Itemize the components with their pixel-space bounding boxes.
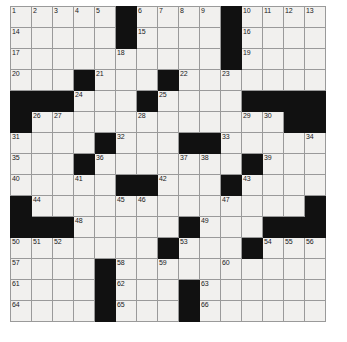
letter-cell[interactable]: [116, 217, 137, 238]
letter-cell[interactable]: [53, 70, 74, 91]
numbered-cell[interactable]: 54: [263, 238, 284, 259]
numbered-cell[interactable]: 37: [179, 154, 200, 175]
letter-cell[interactable]: [242, 217, 263, 238]
letter-cell[interactable]: [137, 217, 158, 238]
letter-cell[interactable]: [200, 196, 221, 217]
numbered-cell[interactable]: 2: [32, 7, 53, 28]
letter-cell[interactable]: [242, 280, 263, 301]
letter-cell[interactable]: [53, 196, 74, 217]
numbered-cell[interactable]: 34: [305, 133, 326, 154]
letter-cell[interactable]: [263, 280, 284, 301]
numbered-cell[interactable]: 48: [74, 217, 95, 238]
letter-cell[interactable]: [137, 280, 158, 301]
letter-cell[interactable]: [221, 280, 242, 301]
letter-cell[interactable]: [74, 238, 95, 259]
numbered-cell[interactable]: 5: [95, 7, 116, 28]
letter-cell[interactable]: [53, 133, 74, 154]
letter-cell[interactable]: [158, 217, 179, 238]
letter-cell[interactable]: [305, 280, 326, 301]
letter-cell[interactable]: [32, 70, 53, 91]
numbered-cell[interactable]: 44: [32, 196, 53, 217]
letter-cell[interactable]: [221, 217, 242, 238]
letter-cell[interactable]: [137, 301, 158, 322]
letter-cell[interactable]: [74, 280, 95, 301]
letter-cell[interactable]: [137, 238, 158, 259]
letter-cell[interactable]: [74, 28, 95, 49]
numbered-cell[interactable]: 10: [242, 7, 263, 28]
numbered-cell[interactable]: 53: [179, 238, 200, 259]
letter-cell[interactable]: [158, 301, 179, 322]
letter-cell[interactable]: [116, 112, 137, 133]
letter-cell[interactable]: [116, 154, 137, 175]
numbered-cell[interactable]: 25: [158, 91, 179, 112]
numbered-cell[interactable]: 38: [200, 154, 221, 175]
letter-cell[interactable]: [179, 49, 200, 70]
numbered-cell[interactable]: 21: [95, 70, 116, 91]
letter-cell[interactable]: [95, 91, 116, 112]
letter-cell[interactable]: [53, 259, 74, 280]
letter-cell[interactable]: [179, 259, 200, 280]
letter-cell[interactable]: [74, 259, 95, 280]
letter-cell[interactable]: [305, 301, 326, 322]
letter-cell[interactable]: [32, 28, 53, 49]
numbered-cell[interactable]: 42: [158, 175, 179, 196]
letter-cell[interactable]: [158, 154, 179, 175]
letter-cell[interactable]: [95, 238, 116, 259]
letter-cell[interactable]: [284, 196, 305, 217]
letter-cell[interactable]: [242, 301, 263, 322]
numbered-cell[interactable]: 64: [11, 301, 32, 322]
letter-cell[interactable]: [158, 280, 179, 301]
letter-cell[interactable]: [263, 301, 284, 322]
letter-cell[interactable]: [305, 175, 326, 196]
numbered-cell[interactable]: 30: [263, 112, 284, 133]
letter-cell[interactable]: [200, 91, 221, 112]
numbered-cell[interactable]: 65: [116, 301, 137, 322]
letter-cell[interactable]: [95, 28, 116, 49]
letter-cell[interactable]: [221, 112, 242, 133]
letter-cell[interactable]: [137, 49, 158, 70]
letter-cell[interactable]: [221, 301, 242, 322]
letter-cell[interactable]: [263, 196, 284, 217]
numbered-cell[interactable]: 61: [11, 280, 32, 301]
numbered-cell[interactable]: 22: [179, 70, 200, 91]
numbered-cell[interactable]: 40: [11, 175, 32, 196]
letter-cell[interactable]: [305, 259, 326, 280]
letter-cell[interactable]: [263, 28, 284, 49]
numbered-cell[interactable]: 11: [263, 7, 284, 28]
letter-cell[interactable]: [116, 238, 137, 259]
letter-cell[interactable]: [158, 28, 179, 49]
letter-cell[interactable]: [284, 280, 305, 301]
letter-cell[interactable]: [95, 196, 116, 217]
numbered-cell[interactable]: 27: [53, 112, 74, 133]
letter-cell[interactable]: [32, 175, 53, 196]
letter-cell[interactable]: [284, 133, 305, 154]
letter-cell[interactable]: [32, 49, 53, 70]
numbered-cell[interactable]: 57: [11, 259, 32, 280]
numbered-cell[interactable]: 28: [137, 112, 158, 133]
letter-cell[interactable]: [200, 112, 221, 133]
numbered-cell[interactable]: 33: [221, 133, 242, 154]
letter-cell[interactable]: [32, 133, 53, 154]
letter-cell[interactable]: [284, 49, 305, 70]
numbered-cell[interactable]: 16: [242, 28, 263, 49]
letter-cell[interactable]: [116, 70, 137, 91]
numbered-cell[interactable]: 36: [95, 154, 116, 175]
letter-cell[interactable]: [179, 196, 200, 217]
letter-cell[interactable]: [74, 112, 95, 133]
letter-cell[interactable]: [305, 49, 326, 70]
numbered-cell[interactable]: 31: [11, 133, 32, 154]
numbered-cell[interactable]: 19: [242, 49, 263, 70]
numbered-cell[interactable]: 59: [158, 259, 179, 280]
letter-cell[interactable]: [200, 70, 221, 91]
letter-cell[interactable]: [74, 133, 95, 154]
letter-cell[interactable]: [284, 154, 305, 175]
numbered-cell[interactable]: 66: [200, 301, 221, 322]
letter-cell[interactable]: [284, 28, 305, 49]
numbered-cell[interactable]: 26: [32, 112, 53, 133]
letter-cell[interactable]: [95, 49, 116, 70]
letter-cell[interactable]: [74, 196, 95, 217]
letter-cell[interactable]: [74, 301, 95, 322]
letter-cell[interactable]: [32, 301, 53, 322]
numbered-cell[interactable]: 51: [32, 238, 53, 259]
numbered-cell[interactable]: 39: [263, 154, 284, 175]
